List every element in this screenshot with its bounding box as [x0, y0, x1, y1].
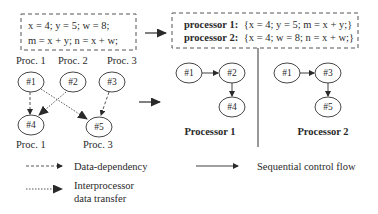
source-line-2: m = x + y; n = x + w; — [28, 35, 118, 46]
proc-label-node5: Proc. 3 — [83, 139, 113, 150]
legend-interprocessor-label-1: Interprocessor — [74, 180, 135, 191]
source-line-1: x = 4; y = 5; w = 8; — [28, 20, 109, 31]
legend-interprocessor-label-2: data transfer — [74, 193, 127, 204]
proc-label-node4: Proc. 1 — [16, 139, 46, 150]
graph-node-5: #5 — [86, 117, 112, 137]
processor1-title: Processor 1 — [184, 126, 235, 137]
diagram-canvas: x = 4; y = 5; w = 8; m = x + y; n = x + … — [0, 0, 378, 214]
graph-node-4-label: #4 — [26, 120, 36, 130]
p1-node-4: #4 — [219, 97, 245, 117]
graph-node-3-label: #3 — [107, 77, 117, 87]
p2-node-5: #5 — [315, 97, 341, 117]
graph-node-1: #1 — [18, 72, 44, 92]
p2-node-1: #1 — [274, 63, 300, 83]
p1-node-2-label: #2 — [227, 68, 237, 78]
proc-label-node2: Proc. 2 — [58, 55, 88, 66]
partitioned-code-box: processor 1: {x = 4; y = 5; m = x + y;} … — [172, 13, 358, 48]
processor2-title: Processor 2 — [297, 126, 348, 137]
processor1-code: {x = 4; y = 5; m = x + y;} — [244, 19, 352, 30]
p1-node-1-label: #1 — [184, 68, 194, 78]
processor1-schedule: #1 #2 #4 Processor 1 — [176, 63, 245, 137]
graph-node-4: #4 — [18, 115, 44, 135]
p2-node-1-label: #1 — [282, 68, 292, 78]
legend-sequential-label: Sequential control flow — [257, 161, 356, 172]
p1-node-1: #1 — [176, 63, 202, 83]
legend-data-dependency-label: Data-dependency — [74, 161, 148, 172]
processor2-code-label: processor 2: — [184, 32, 238, 43]
graph-node-1-label: #1 — [26, 77, 36, 87]
graph-node-2: #2 — [60, 72, 86, 92]
source-code-box: x = 4; y = 5; w = 8; m = x + y; n = x + … — [21, 14, 136, 50]
edge-1-to-5 — [41, 89, 87, 119]
p2-node-3-label: #3 — [323, 68, 333, 78]
p1-node-2: #2 — [219, 63, 245, 83]
graph-node-2-label: #2 — [68, 77, 78, 87]
task-graph: Proc. 1 Proc. 2 Proc. 3 #1 #2 #3 #4 #5 P — [16, 55, 137, 150]
p2-node-5-label: #5 — [323, 102, 333, 112]
edge-2-to-4 — [39, 92, 66, 115]
processor1-code-label: processor 1: — [184, 19, 238, 30]
processor2-schedule: #1 #3 #5 Processor 2 — [274, 63, 349, 137]
graph-node-3: #3 — [99, 72, 125, 92]
edge-3-to-5 — [101, 92, 109, 115]
legend: Data-dependency Sequential control flow … — [26, 161, 356, 204]
graph-node-5-label: #5 — [94, 122, 104, 132]
p1-node-4-label: #4 — [227, 102, 237, 112]
partition-line-2: processor 2: {x = 4; w = 8; n = x + w;} — [184, 32, 354, 43]
partition-line-1: processor 1: {x = 4; y = 5; m = x + y;} — [184, 19, 352, 30]
proc-label-node1: Proc. 1 — [16, 55, 46, 66]
p2-node-3: #3 — [315, 63, 341, 83]
processor2-code: {x = 4; w = 8; n = x + w;} — [244, 32, 354, 43]
proc-label-node3: Proc. 3 — [107, 55, 137, 66]
